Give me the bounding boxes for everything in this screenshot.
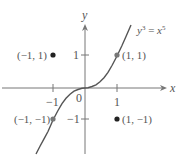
- y-tick-label-neg1: −1: [67, 112, 80, 126]
- x-axis-label: x: [169, 81, 176, 95]
- point-label-1-1: (1, 1): [122, 49, 146, 62]
- x-tick-label-1: 1: [114, 95, 120, 109]
- y-tick-label-1: 1: [73, 48, 79, 62]
- point-1-neg1: [114, 116, 119, 121]
- point-neg1-neg1: [50, 116, 55, 121]
- x-tick-label-neg1: −1: [46, 95, 59, 109]
- point-label-neg1-1: (−1, 1): [17, 49, 47, 62]
- point-1-1: [114, 52, 119, 57]
- y-axis-label: y: [81, 8, 88, 22]
- chart: x y −1 0 1 1 −1 y3 = x5 (1, 1) (−1, −1) …: [0, 0, 183, 166]
- curve-equation-label: y3 = x5: [136, 24, 166, 36]
- point-label-1-neg1: (1, −1): [122, 113, 152, 126]
- x-tick-label-0: 0: [76, 91, 82, 105]
- point-label-neg1-neg1: (−1, −1): [14, 113, 51, 126]
- point-neg1-1: [50, 52, 55, 57]
